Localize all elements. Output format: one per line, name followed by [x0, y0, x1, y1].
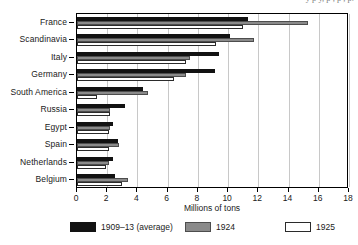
y-axis-tick: [69, 179, 74, 180]
bar-group: [77, 32, 347, 50]
bar: [77, 165, 106, 169]
bar: [77, 95, 97, 99]
bar-group: [77, 154, 347, 172]
plot-area: [76, 13, 348, 188]
legend-label: 1909–13 (average): [101, 222, 173, 232]
x-axis-tick: [288, 188, 289, 192]
y-axis-label: Italy: [51, 52, 67, 62]
x-axis-tick: [76, 188, 77, 192]
y-axis-label: Germany: [31, 69, 67, 79]
legend-item[interactable]: 1925: [285, 222, 335, 232]
x-axis-tick-label: 2: [104, 193, 109, 203]
chart-legend: 1909–13 (average)19241925: [0, 222, 358, 240]
bar-group: [77, 137, 347, 155]
bar-group: [77, 67, 347, 85]
y-axis-tick: [69, 92, 74, 93]
x-axis-tick: [348, 188, 349, 192]
bar-groups: [77, 14, 347, 187]
x-axis-tick-label: 18: [343, 193, 352, 203]
bar: [77, 147, 109, 151]
y-axis-tick: [69, 144, 74, 145]
y-axis-label: Belgium: [36, 174, 67, 184]
gridline: [349, 14, 350, 187]
bar: [77, 42, 216, 46]
x-axis-tick: [106, 188, 107, 192]
x-axis-tick: [197, 188, 198, 192]
y-axis-label: South America: [10, 87, 67, 97]
bar-group: [77, 172, 347, 190]
legend-swatch: [285, 222, 311, 232]
y-axis-tick: [69, 162, 74, 163]
y-axis-tick: [69, 57, 74, 58]
legend-item[interactable]: 1924: [185, 222, 235, 232]
x-axis-tick-label: 4: [134, 193, 139, 203]
x-axis-tick-label: 14: [283, 193, 292, 203]
chart-figure: y p y, p , p , p. FranceScandinaviaItaly…: [0, 0, 358, 245]
bar: [77, 60, 186, 64]
bar-group: [77, 49, 347, 67]
y-axis-category-labels: FranceScandinaviaItalyGermanySouth Ameri…: [0, 13, 74, 188]
x-axis-tick-label: 0: [74, 193, 79, 203]
y-axis-tick: [69, 109, 74, 110]
x-axis-tick: [227, 188, 228, 192]
y-axis-tick: [69, 39, 74, 40]
x-axis-tick: [167, 188, 168, 192]
bar-group: [77, 14, 347, 32]
y-axis-label: Egypt: [45, 122, 67, 132]
bar-group: [77, 119, 347, 137]
y-axis-tick: [69, 74, 74, 75]
x-axis-tick: [318, 188, 319, 192]
cropped-caption-text: y p y, p , p , p.: [306, 0, 354, 3]
y-axis-label: Russia: [40, 104, 67, 114]
x-axis-tick-label: 16: [313, 193, 322, 203]
x-axis-tick: [136, 188, 137, 192]
x-axis-title: Millions of tons: [76, 203, 348, 213]
y-axis-label: France: [40, 17, 67, 27]
bar: [77, 25, 243, 29]
bar: [77, 130, 109, 134]
bar: [77, 112, 110, 116]
cropped-caption: y p y, p , p , p.: [0, 0, 358, 9]
legend-label: 1924: [216, 222, 235, 232]
bar: [77, 182, 122, 186]
y-axis-label: Scandinavia: [20, 34, 67, 44]
y-axis-tick: [69, 22, 74, 23]
bar-group: [77, 102, 347, 120]
y-axis-label: Netherlands: [20, 157, 67, 167]
y-axis-tick: [69, 127, 74, 128]
bar: [77, 77, 174, 81]
bar-group: [77, 84, 347, 102]
x-axis-tick-label: 12: [253, 193, 262, 203]
legend-item[interactable]: 1909–13 (average): [70, 222, 173, 232]
legend-label: 1925: [316, 222, 335, 232]
x-axis-tick-label: 10: [222, 193, 231, 203]
x-axis-tick-label: 6: [164, 193, 169, 203]
y-axis-label: Spain: [45, 139, 67, 149]
legend-swatch: [70, 222, 96, 232]
x-axis-tick: [257, 188, 258, 192]
x-axis-tick-label: 8: [195, 193, 200, 203]
legend-swatch: [185, 222, 211, 232]
